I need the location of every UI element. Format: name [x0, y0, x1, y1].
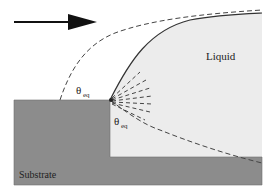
substrate-label: Substrate [19, 169, 57, 180]
liquid-label: Liquid [206, 50, 236, 62]
liquid-region [110, 13, 262, 157]
svg-text:eq: eq [83, 91, 90, 99]
svg-text:eq: eq [121, 122, 128, 130]
wetting-diagram: Liquid Substrate θ eq θ eq [0, 0, 270, 195]
right-arrow-icon [14, 14, 97, 30]
contact-line-pivot [109, 98, 113, 102]
svg-text:θ: θ [76, 84, 81, 96]
theta-eq-top-label: θ eq [76, 84, 90, 99]
svg-text:θ: θ [114, 115, 119, 127]
